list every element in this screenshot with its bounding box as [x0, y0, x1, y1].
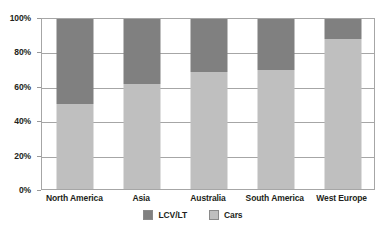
y-axis-tick-label: 80%	[14, 47, 31, 57]
y-axis-tick-mark	[37, 18, 41, 19]
bar-stack[interactable]	[124, 19, 161, 189]
bar-segment-lcv-lt[interactable]	[257, 19, 294, 70]
plot-area	[41, 18, 375, 190]
y-axis-tick-mark	[37, 52, 41, 53]
bar-segment-lcv-lt[interactable]	[57, 19, 94, 104]
legend-swatch-lcv-icon	[143, 210, 153, 220]
x-axis-tick-label: South America	[246, 193, 304, 203]
legend-swatch-cars-icon	[209, 210, 219, 220]
bar-stack[interactable]	[257, 19, 294, 189]
bar-stack[interactable]	[324, 19, 361, 189]
x-axis-tick-label: West Europe	[316, 193, 367, 203]
x-axis: North AmericaAsiaAustraliaSouth AmericaW…	[41, 191, 375, 207]
x-axis-tick-label: North America	[46, 193, 103, 203]
y-axis-tick-mark	[37, 156, 41, 157]
y-axis-tick-label: 0%	[19, 185, 31, 195]
bar-segment-cars[interactable]	[190, 72, 227, 189]
bar-stack[interactable]	[57, 19, 94, 189]
y-axis-tick-mark	[37, 190, 41, 191]
y-axis-tick-label: 40%	[14, 116, 31, 126]
bar-stack[interactable]	[190, 19, 227, 189]
legend-item[interactable]: Cars	[209, 210, 243, 220]
bar-group	[42, 19, 109, 189]
x-axis-tick-label: Asia	[132, 193, 150, 203]
y-axis-tick-label: 20%	[14, 151, 31, 161]
bar-segment-cars[interactable]	[124, 84, 161, 189]
bar-segment-cars[interactable]	[57, 104, 94, 189]
x-axis-tick-label: Australia	[190, 193, 225, 203]
bar-group	[109, 19, 176, 189]
bar-segment-cars[interactable]	[257, 70, 294, 189]
legend-item[interactable]: LCV/LT	[143, 210, 187, 220]
bar-group	[242, 19, 309, 189]
y-axis-tick-label: 100%	[10, 13, 31, 23]
bar-segment-lcv-lt[interactable]	[124, 19, 161, 84]
bar-segment-lcv-lt[interactable]	[190, 19, 227, 72]
y-axis: 0%20%40%60%80%100%	[0, 18, 36, 190]
bar-group	[176, 19, 243, 189]
bar-segment-cars[interactable]	[324, 39, 361, 189]
y-axis-tick-mark	[37, 87, 41, 88]
legend-label: Cars	[224, 210, 243, 220]
chart-legend: LCV/LTCars	[0, 210, 386, 220]
bar-group	[309, 19, 376, 189]
stacked-bar-chart: 0%20%40%60%80%100% North AmericaAsiaAust…	[0, 0, 386, 232]
y-axis-tick-label: 60%	[14, 82, 31, 92]
bars-layer	[42, 19, 374, 189]
bar-segment-lcv-lt[interactable]	[324, 19, 361, 39]
y-axis-tick-mark	[37, 121, 41, 122]
legend-label: LCV/LT	[158, 210, 187, 220]
